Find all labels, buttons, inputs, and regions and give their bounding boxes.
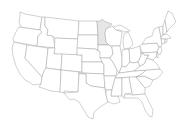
state-kansas[interactable] bbox=[82, 62, 104, 74]
state-rhode-island[interactable] bbox=[165, 39, 167, 43]
state-new-mexico[interactable] bbox=[60, 70, 79, 93]
state-north-dakota[interactable] bbox=[78, 21, 98, 35]
state-florida[interactable] bbox=[124, 94, 153, 117]
state-pennsylvania[interactable] bbox=[140, 43, 159, 53]
state-iowa[interactable] bbox=[98, 45, 113, 58]
state-south-dakota[interactable] bbox=[77, 35, 98, 50]
state-colorado[interactable] bbox=[61, 54, 82, 72]
state-wyoming[interactable] bbox=[54, 38, 78, 55]
us-map bbox=[0, 0, 184, 125]
state-montana[interactable] bbox=[45, 17, 79, 39]
state-michigan[interactable] bbox=[123, 32, 133, 49]
state-maine[interactable] bbox=[165, 11, 176, 32]
